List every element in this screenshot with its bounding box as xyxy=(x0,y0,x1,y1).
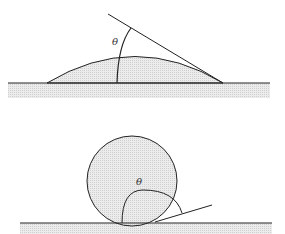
bottom-theta-label: θ xyxy=(136,176,142,187)
top-substrate xyxy=(8,83,270,98)
top-droplet xyxy=(47,57,223,84)
bottom-substrate xyxy=(20,223,272,234)
contact-angle-diagram xyxy=(0,0,285,234)
bottom-droplet xyxy=(87,136,177,226)
top-panel xyxy=(8,14,270,98)
bottom-panel xyxy=(20,136,272,234)
top-theta-label: θ xyxy=(112,36,118,47)
